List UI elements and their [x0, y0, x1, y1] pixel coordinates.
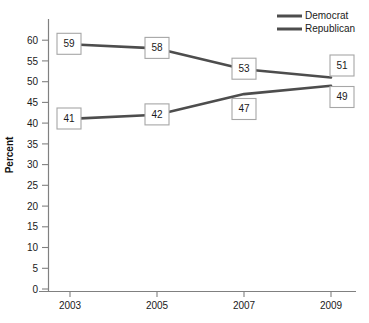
- y-axis-title: Percent: [4, 136, 15, 173]
- y-tick-label-50: 50: [27, 76, 39, 87]
- y-tick-label-30: 30: [27, 159, 39, 170]
- x-tick-label-2007: 2007: [233, 300, 256, 311]
- data-label-democrat-2005: 58: [145, 37, 169, 58]
- data-label-value: 58: [151, 42, 163, 53]
- data-label-republican-2007: 47: [232, 99, 256, 120]
- data-label-value: 59: [63, 38, 75, 49]
- x-tick-label-2005: 2005: [146, 300, 169, 311]
- data-label-value: 47: [238, 103, 250, 114]
- chart-background: [0, 0, 369, 323]
- data-label-republican-2009: 49: [330, 87, 354, 108]
- data-label-value: 49: [336, 91, 348, 102]
- x-tick-label-2009: 2009: [320, 300, 343, 311]
- y-tick-label-10: 10: [27, 242, 39, 253]
- data-label-value: 53: [238, 63, 250, 74]
- data-label-republican-2005: 42: [145, 104, 169, 125]
- y-tick-label-25: 25: [27, 180, 39, 191]
- data-label-democrat-2009: 51: [330, 55, 354, 76]
- y-tick-label-60: 60: [27, 35, 39, 46]
- data-label-value: 41: [63, 113, 75, 124]
- y-tick-label-0: 0: [32, 284, 38, 295]
- data-label-democrat-2003: 59: [57, 33, 81, 54]
- y-tick-label-15: 15: [27, 221, 39, 232]
- legend-label-republican: Republican: [305, 23, 355, 34]
- y-tick-label-20: 20: [27, 201, 39, 212]
- legend-label-democrat: Democrat: [305, 10, 349, 21]
- y-tick-label-55: 55: [27, 56, 39, 67]
- data-label-democrat-2007: 53: [232, 58, 256, 79]
- y-tick-label-35: 35: [27, 139, 39, 150]
- data-label-republican-2003: 41: [57, 108, 81, 129]
- data-label-value: 51: [336, 60, 348, 71]
- y-tick-label-5: 5: [32, 263, 38, 274]
- line-chart: 60 55 50 45 40 35 30 25 20 15 10 5 0 Per…: [0, 0, 369, 323]
- chart-canvas: 60 55 50 45 40 35 30 25 20 15 10 5 0 Per…: [0, 0, 369, 323]
- data-label-value: 42: [151, 109, 163, 120]
- y-tick-label-40: 40: [27, 118, 39, 129]
- x-tick-label-2003: 2003: [59, 300, 82, 311]
- y-tick-label-45: 45: [27, 97, 39, 108]
